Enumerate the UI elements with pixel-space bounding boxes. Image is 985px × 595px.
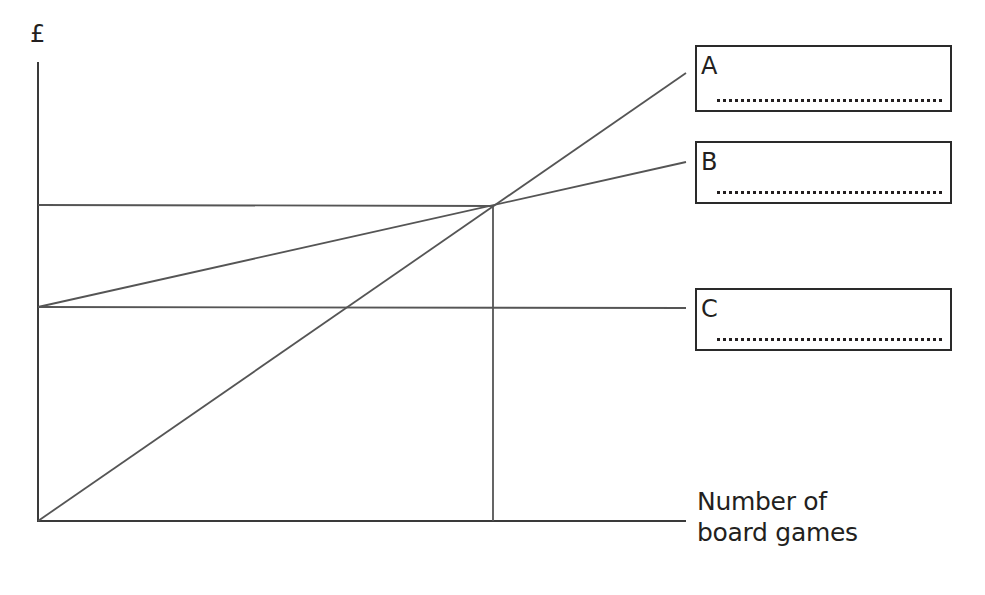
answer-box-b[interactable]: B — [695, 141, 952, 204]
x-axis-label-line2: board games — [697, 517, 858, 548]
line-a-total-revenue — [38, 73, 686, 521]
answer-line-b[interactable] — [717, 191, 942, 194]
y-axis-label: £ — [30, 22, 45, 46]
label-letter-b: B — [701, 149, 717, 175]
answer-line-a[interactable] — [717, 99, 942, 102]
line-b-total-cost — [38, 162, 686, 307]
line-c-fixed-cost — [38, 307, 686, 308]
x-axis-label: Number of board games — [697, 486, 858, 548]
answer-box-c[interactable]: C — [695, 288, 952, 351]
answer-box-a[interactable]: A — [695, 45, 952, 112]
label-letter-c: C — [701, 296, 718, 322]
break-even-horizontal-guide — [38, 205, 493, 206]
label-letter-a: A — [701, 53, 717, 79]
answer-line-c[interactable] — [717, 338, 942, 341]
x-axis-label-line1: Number of — [697, 486, 858, 517]
